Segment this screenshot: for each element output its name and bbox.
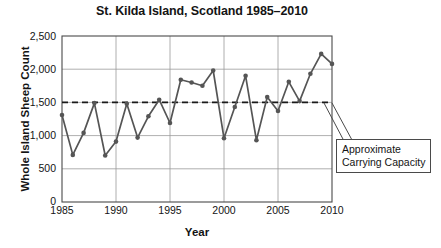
carrying-capacity-callout: Approximate Carrying Capacity bbox=[336, 139, 431, 173]
plot-border bbox=[62, 36, 332, 202]
gridlines bbox=[62, 36, 332, 202]
plot-area bbox=[0, 0, 441, 248]
callout-line-2: Carrying Capacity bbox=[342, 156, 425, 169]
callout-line-1: Approximate bbox=[342, 143, 425, 156]
chart-figure: St. Kilda Island, Scotland 1985–2010 Who… bbox=[0, 0, 441, 248]
data-point-markers bbox=[60, 52, 335, 158]
